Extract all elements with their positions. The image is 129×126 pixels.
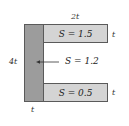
web-label: S = 1.2 — [65, 57, 99, 66]
top-width-label: 2t — [71, 13, 79, 21]
top-flange-label: S = 1.5 — [59, 29, 93, 39]
arrow-left-icon — [35, 58, 61, 66]
channel-section-diagram: 2t S = 1.5 S = 0.5 t t 4t t S = 1.2 — [0, 0, 129, 126]
bottom-flange-thickness-label: t — [112, 89, 115, 97]
web-thickness-label: t — [31, 106, 34, 114]
top-flange-region: S = 1.5 — [44, 24, 108, 43]
bottom-flange-region: S = 0.5 — [44, 83, 108, 102]
top-flange-thickness-label: t — [112, 31, 115, 39]
height-label: 4t — [9, 58, 17, 66]
bottom-flange-label: S = 0.5 — [59, 88, 93, 98]
